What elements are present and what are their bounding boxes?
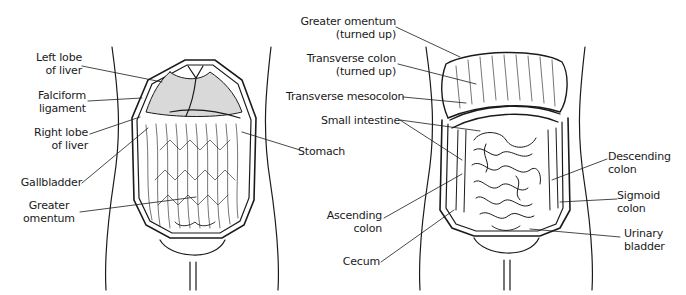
label-stomach: Stomach — [298, 146, 345, 159]
label-line: Left lobe — [28, 52, 82, 65]
label-transverse-colon-turned-up: Transverse colon (turned up) — [296, 53, 396, 78]
label-line: Sigmoid — [617, 190, 660, 203]
label-small-intestine: Small intestine — [320, 115, 400, 128]
label-line: Gallbladder — [10, 177, 82, 190]
label-line: Falciform — [28, 90, 86, 103]
label-line: colon — [608, 164, 671, 177]
label-sigmoid-colon: Sigmoid colon — [617, 190, 660, 215]
label-line: of liver — [28, 65, 82, 78]
label-line: Greater omentum — [300, 16, 396, 29]
label-greater-omentum: Greater omentum — [20, 200, 78, 225]
label-line: colon — [326, 223, 382, 236]
label-line: Urinary — [624, 228, 665, 241]
label-line: Cecum — [340, 256, 380, 269]
label-cecum: Cecum — [340, 256, 380, 269]
label-line: Greater — [20, 200, 78, 213]
label-right-lobe-of-liver: Right lobe of liver — [20, 127, 88, 152]
label-line: bladder — [624, 241, 665, 254]
leader-lines-right — [381, 27, 620, 262]
label-urinary-bladder: Urinary bladder — [624, 228, 665, 253]
label-gallbladder: Gallbladder — [10, 177, 82, 190]
label-left-lobe-of-liver: Left lobe of liver — [28, 52, 82, 77]
label-line: Transverse colon — [296, 53, 396, 66]
label-line: (turned up) — [300, 29, 396, 42]
label-line: ligament — [28, 103, 86, 116]
label-line: Stomach — [298, 146, 345, 159]
anatomy-figure: Left lobe of liver Falciform ligament Ri… — [0, 0, 686, 295]
label-line: Small intestine — [320, 115, 400, 128]
label-falciform-ligament: Falciform ligament — [28, 90, 86, 115]
label-descending-colon: Descending colon — [608, 151, 671, 176]
label-transverse-mesocolon: Transverse mesocolon — [286, 91, 402, 104]
label-line: colon — [617, 203, 660, 216]
left-abdominal-cavity — [132, 60, 256, 238]
label-greater-omentum-turned-up: Greater omentum (turned up) — [300, 16, 396, 41]
label-line: of liver — [20, 140, 88, 153]
label-line: (turned up) — [296, 66, 396, 79]
label-line: Ascending — [326, 210, 382, 223]
label-line: omentum — [20, 213, 78, 226]
label-line: Descending — [608, 151, 671, 164]
label-line: Right lobe — [20, 127, 88, 140]
label-line: Transverse mesocolon — [286, 91, 402, 104]
label-ascending-colon: Ascending colon — [326, 210, 382, 235]
